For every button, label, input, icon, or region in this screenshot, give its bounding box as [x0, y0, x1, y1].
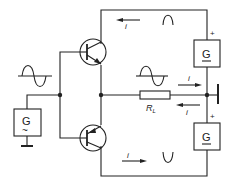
- svg-text:i: i: [125, 22, 127, 31]
- current-arrow-top: i: [116, 18, 140, 31]
- svg-text:~: ~: [22, 125, 28, 136]
- npn-transistor-icon: [80, 39, 106, 65]
- pnp-transistor-icon: [80, 125, 106, 151]
- svg-text:RL: RL: [146, 103, 156, 114]
- load-resistor: RL: [140, 91, 170, 114]
- svg-text:+: +: [210, 112, 215, 121]
- svg-text:G: G: [202, 131, 211, 143]
- svg-text:+: +: [210, 29, 215, 38]
- current-arrow-bottom: i: [122, 151, 147, 163]
- current-arrow-right-upper: i: [178, 74, 202, 87]
- svg-text:i: i: [186, 108, 188, 117]
- input-sine-wave-icon: [18, 66, 52, 87]
- lower-half-wave-icon: [163, 152, 173, 163]
- circuit-diagram: RL G + G + G ~ i i: [0, 0, 233, 186]
- current-arrow-right-lower: i: [176, 103, 200, 117]
- svg-text:i: i: [127, 151, 129, 160]
- upper-half-wave-icon: [163, 15, 173, 25]
- svg-text:i: i: [188, 74, 190, 83]
- ac-signal-source: G ~: [14, 109, 41, 136]
- output-sine-wave-icon: [136, 66, 168, 86]
- wires: [21, 10, 218, 176]
- svg-text:G: G: [202, 48, 211, 60]
